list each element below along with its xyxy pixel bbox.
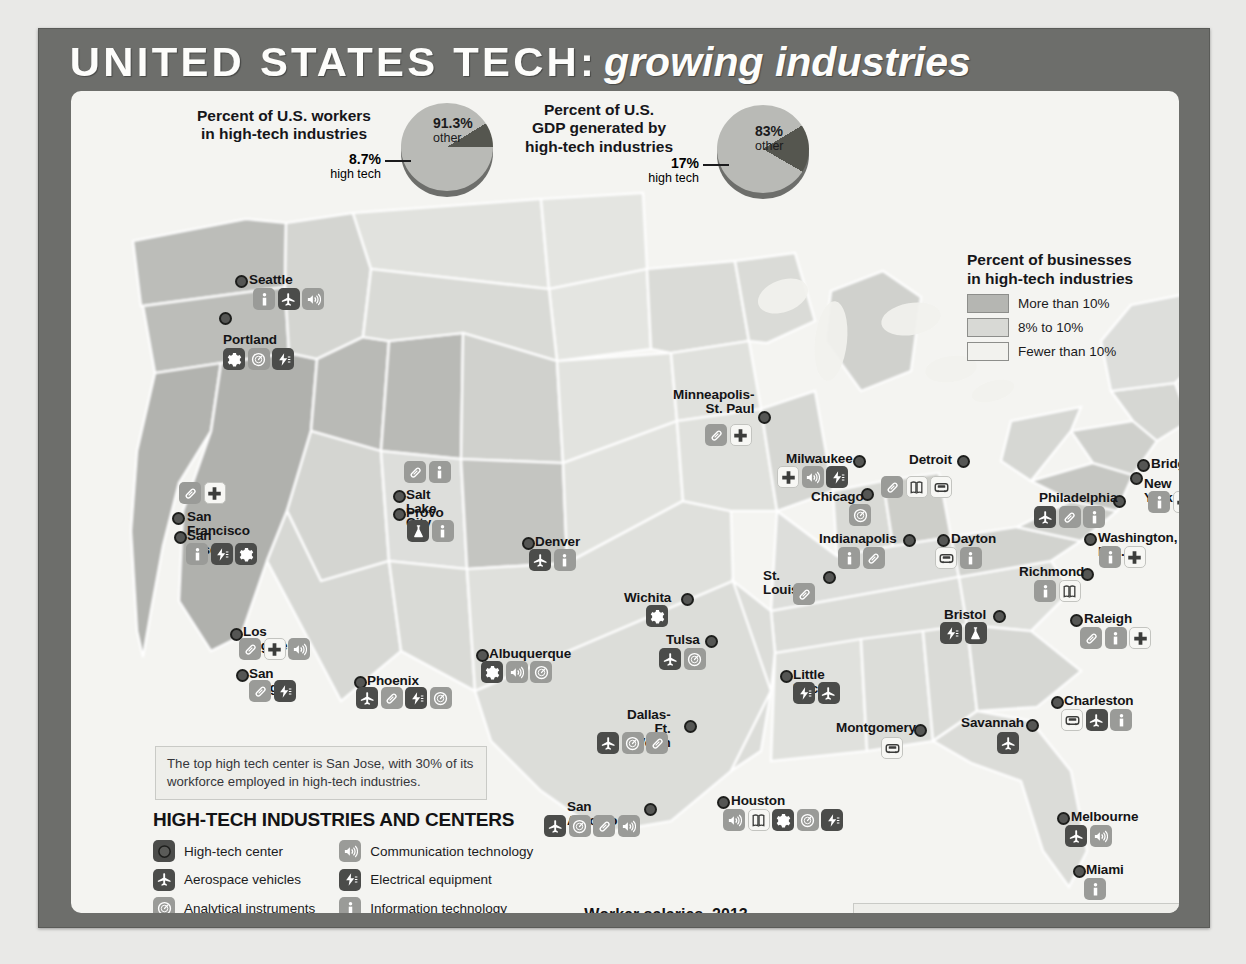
industry-legend-column-2: Communication technologyElectrical equip… <box>339 840 533 913</box>
biopharmaceuticals-icon <box>1059 506 1081 528</box>
san-jose-callout: The top high tech center is San Jose, wi… <box>155 746 487 800</box>
information-tech-icon <box>253 288 275 310</box>
city-industry-icons <box>940 622 987 644</box>
biopharmaceuticals-icon <box>1080 627 1102 649</box>
high-tech-center-icon <box>644 803 657 816</box>
city-label: Indianapolis <box>819 532 897 546</box>
infographic-page: UNITED STATES TECH: growing industries <box>0 0 1246 964</box>
metal-manufacturing-icon <box>223 348 245 370</box>
salary-chart-title: Worker salaries, 2013 <box>501 906 831 913</box>
aerospace-icon <box>278 288 300 310</box>
city-label: Seattle <box>249 273 293 287</box>
electrical-icon <box>272 348 294 370</box>
communication-icon <box>339 840 361 862</box>
electrical-icon <box>211 543 233 565</box>
aerospace-icon <box>818 682 840 704</box>
metal-manufacturing-icon <box>235 543 257 565</box>
information-tech-icon <box>1148 491 1170 513</box>
high-tech-center-icon <box>219 312 232 325</box>
aerospace-icon <box>1065 825 1087 847</box>
city-label: Portland <box>223 333 277 347</box>
choropleth-legend-title: Percent of businesses in high-tech indus… <box>967 251 1179 288</box>
medical-icon <box>777 466 799 488</box>
city-industry-icons <box>646 605 668 627</box>
information-tech-icon <box>960 547 982 569</box>
information-tech-icon <box>554 549 576 571</box>
city-industry-icons <box>1034 580 1081 602</box>
electrical-icon <box>274 680 296 702</box>
high-tech-center-icon <box>1130 472 1143 485</box>
biopharmaceuticals-icon <box>646 732 668 754</box>
city-industry-icons <box>849 504 871 526</box>
plastics-icon <box>906 476 928 498</box>
analytical-instruments-icon <box>530 661 552 683</box>
analytical-instruments-icon <box>430 687 452 709</box>
information-tech-icon <box>432 520 454 542</box>
city-industry-icons <box>179 482 226 504</box>
automotive-icon <box>935 547 957 569</box>
city-industry-icons <box>1080 627 1151 649</box>
chemicals-icon <box>407 520 429 542</box>
information-tech-icon <box>1110 709 1132 731</box>
choropleth-legend: Percent of businesses in high-tech indus… <box>967 251 1179 366</box>
workers-pie-title: Percent of U.S. workers in high-tech ind… <box>189 107 379 144</box>
city-industry-icons <box>1084 878 1106 900</box>
electrical-icon <box>940 622 962 644</box>
city-industry-icons <box>777 466 848 488</box>
high-tech-center-icon <box>780 670 793 683</box>
biopharmaceuticals-icon <box>249 680 271 702</box>
city-industry-icons <box>1099 546 1146 568</box>
biopharmaceuticals-icon <box>793 583 815 605</box>
high-tech-center-icon <box>236 669 249 682</box>
information-tech-icon <box>1083 506 1105 528</box>
biopharmaceuticals-icon <box>593 815 615 837</box>
aerospace-icon <box>997 732 1019 754</box>
medical-icon <box>204 482 226 504</box>
city-industry-icons <box>404 461 451 483</box>
electrical-icon <box>826 466 848 488</box>
city-label: Savannah <box>961 716 1024 730</box>
pie-leader-line <box>385 160 411 162</box>
electrical-icon <box>405 687 427 709</box>
city-label: Houston <box>731 794 785 808</box>
high-tech-center-icon <box>684 720 697 733</box>
high-tech-center-icon <box>903 534 916 547</box>
high-tech-center-icon <box>1137 459 1150 472</box>
city-label: Richmond <box>1019 565 1084 579</box>
legend-item: High-tech center <box>153 840 315 862</box>
biopharmaceuticals-icon <box>863 547 885 569</box>
title-bar: UNITED STATES TECH: growing industries <box>39 29 1209 95</box>
aerospace-icon <box>529 549 551 571</box>
gdp-pie-major-label: 83% other <box>755 123 784 153</box>
high-tech-center-icon <box>393 508 406 521</box>
aerospace-icon <box>153 869 175 891</box>
information-tech-icon <box>429 461 451 483</box>
city-label: Detroit <box>909 453 952 467</box>
information-tech-icon <box>339 897 361 913</box>
city-label: Charleston <box>1064 694 1134 708</box>
gdp-pie-title: Percent of U.S. GDP generated by high-te… <box>499 101 699 156</box>
legend-item-label: Communication technology <box>370 844 533 859</box>
communication-icon <box>506 661 528 683</box>
city-industry-icons <box>239 638 310 660</box>
legend-item: Analytical instruments <box>153 897 315 913</box>
information-tech-icon <box>1084 878 1106 900</box>
city-industry-icons <box>659 648 706 670</box>
city-label: Minneapolis- St. Paul <box>673 388 754 416</box>
city-industry-icons <box>793 583 815 605</box>
choropleth-swatch <box>967 318 1009 337</box>
high-tech-center-icon <box>853 455 866 468</box>
biopharmaceuticals-icon <box>705 424 727 446</box>
choropleth-class-label: Fewer than 10% <box>1018 344 1116 359</box>
biopharmaceuticals-icon <box>404 461 426 483</box>
city-industry-icons <box>529 549 576 571</box>
legend-item-label: Information technology <box>370 901 507 914</box>
high-tech-center-icon <box>1070 614 1083 627</box>
city-industry-icons <box>838 547 885 569</box>
aerospace-icon <box>356 687 378 709</box>
aerospace-icon <box>1086 709 1108 731</box>
communication-icon <box>618 815 640 837</box>
legend-item-label: High-tech center <box>184 844 283 859</box>
biopharmaceuticals-icon <box>179 482 201 504</box>
aerospace-icon <box>659 648 681 670</box>
